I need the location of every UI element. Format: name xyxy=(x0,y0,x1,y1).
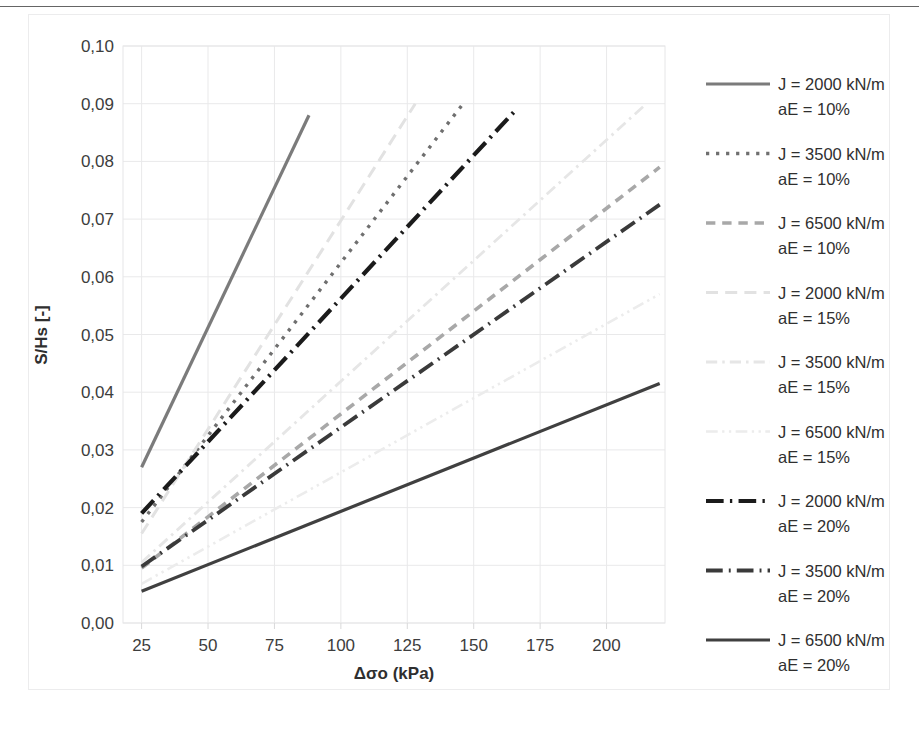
x-axis-tick-labels: 255075100125150175200 xyxy=(132,636,621,655)
y-axis-title: S/Hs [-] xyxy=(32,305,51,365)
legend-label-j-1: J = 3500 kN/m xyxy=(778,145,885,163)
legend-label-ae-6: aE = 20% xyxy=(778,517,850,535)
x-tick-label: 25 xyxy=(132,636,151,655)
legend-label-ae-1: aE = 10% xyxy=(778,170,850,188)
legend-label-j-8: J = 6500 kN/m xyxy=(778,631,885,649)
legend-label-ae-3: aE = 15% xyxy=(778,309,850,327)
x-tick-label: 125 xyxy=(393,636,421,655)
y-tick-label: 0,01 xyxy=(81,556,114,575)
x-tick-label: 100 xyxy=(327,636,355,655)
legend-label-j-2: J = 6500 kN/m xyxy=(778,214,885,232)
legend-label-ae-5: aE = 15% xyxy=(778,448,850,466)
x-tick-label: 175 xyxy=(526,636,554,655)
y-tick-label: 0,07 xyxy=(81,210,114,229)
legend-label-j-4: J = 3500 kN/m xyxy=(778,353,885,371)
chart-legend: J = 2000 kN/maE = 10%J = 3500 kN/maE = 1… xyxy=(706,75,885,674)
y-tick-label: 0,09 xyxy=(81,95,114,114)
legend-label-j-7: J = 3500 kN/m xyxy=(778,562,885,580)
legend-label-j-6: J = 2000 kN/m xyxy=(778,492,885,510)
legend-label-ae-8: aE = 20% xyxy=(778,656,850,674)
y-tick-label: 0,02 xyxy=(81,499,114,518)
y-axis-tick-labels: 0,100,090,080,070,060,050,040,030,020,01… xyxy=(81,37,114,633)
legend-label-ae-2: aE = 10% xyxy=(778,239,850,257)
line-chart: 0,100,090,080,070,060,050,040,030,020,01… xyxy=(0,0,919,729)
y-tick-label: 0,06 xyxy=(81,268,114,287)
series-line-0 xyxy=(142,115,309,467)
legend-label-ae-0: aE = 10% xyxy=(778,100,850,118)
chart-page: 0,100,090,080,070,060,050,040,030,020,01… xyxy=(0,0,919,729)
legend-label-j-0: J = 2000 kN/m xyxy=(778,75,885,93)
legend-label-ae-7: aE = 20% xyxy=(778,587,850,605)
series-line-4 xyxy=(142,104,647,563)
legend-label-j-5: J = 6500 kN/m xyxy=(778,423,885,441)
series-layer xyxy=(142,104,660,592)
x-axis-title: Δσo (kPa) xyxy=(354,664,435,683)
y-tick-label: 0,03 xyxy=(81,441,114,460)
y-tick-label: 0,10 xyxy=(81,37,114,56)
x-tick-label: 200 xyxy=(592,636,620,655)
y-tick-label: 0,00 xyxy=(81,614,114,633)
series-line-7 xyxy=(142,205,660,567)
legend-label-ae-4: aE = 15% xyxy=(778,378,850,396)
x-tick-label: 150 xyxy=(460,636,488,655)
series-line-8 xyxy=(142,384,660,592)
x-tick-label: 50 xyxy=(199,636,218,655)
series-line-6 xyxy=(142,112,514,513)
series-line-5 xyxy=(142,294,660,584)
legend-label-j-3: J = 2000 kN/m xyxy=(778,284,885,302)
x-tick-label: 75 xyxy=(265,636,284,655)
y-tick-label: 0,08 xyxy=(81,152,114,171)
y-tick-label: 0,05 xyxy=(81,326,114,345)
y-tick-label: 0,04 xyxy=(81,383,114,402)
axis-tickmarks xyxy=(142,623,607,629)
